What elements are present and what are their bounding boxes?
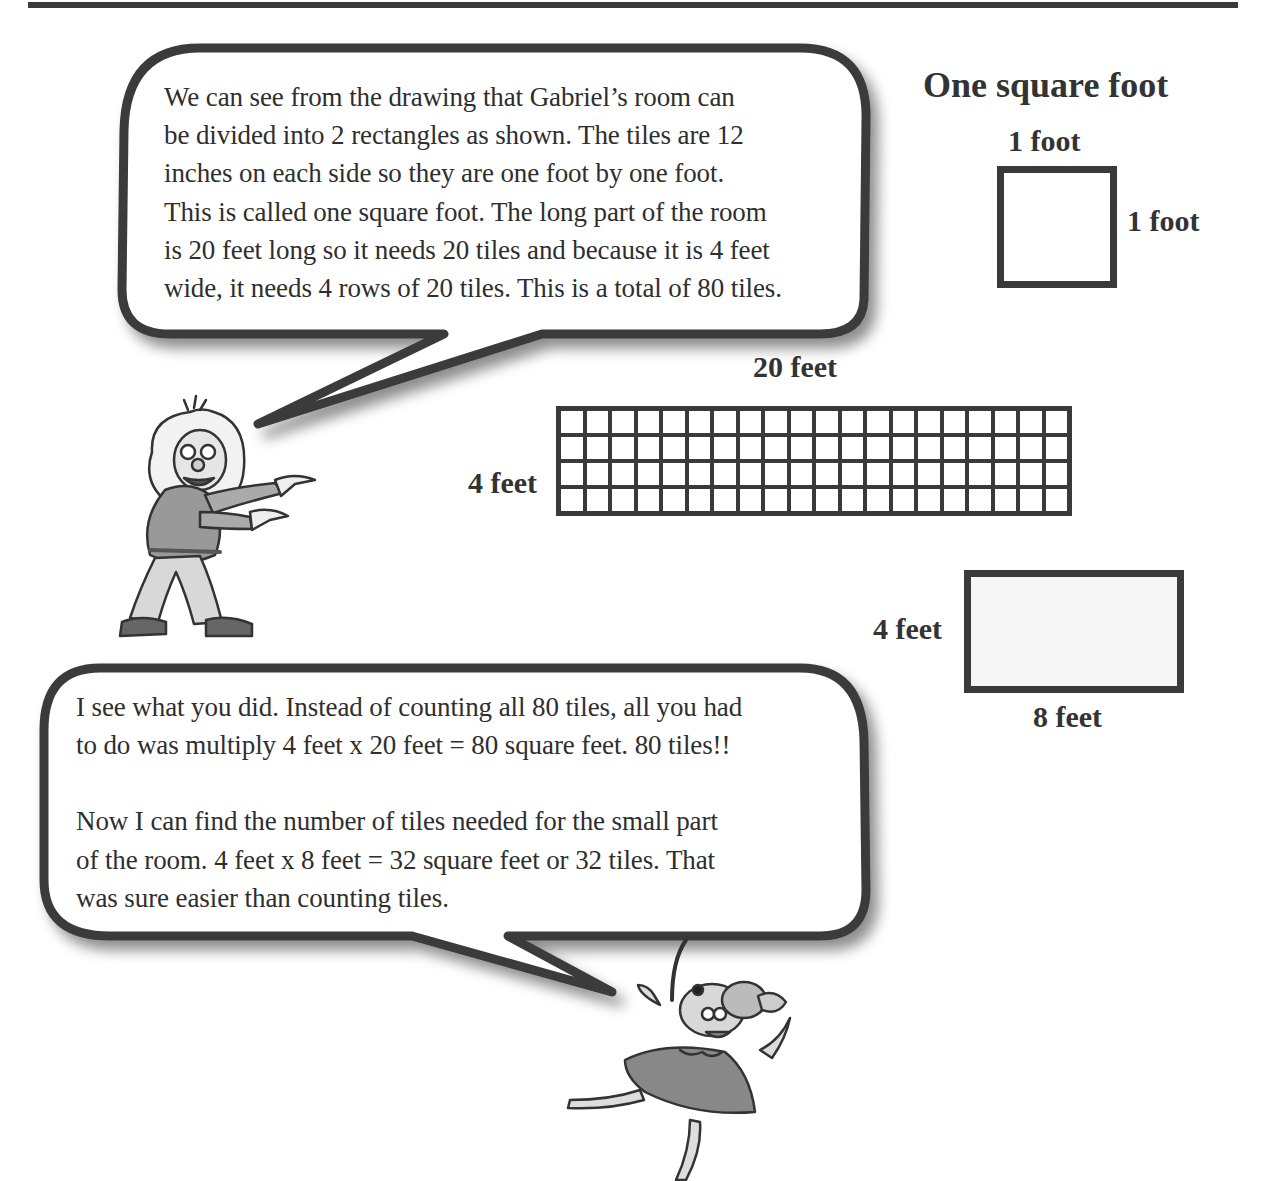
mouse-character-icon <box>0 0 1264 1181</box>
